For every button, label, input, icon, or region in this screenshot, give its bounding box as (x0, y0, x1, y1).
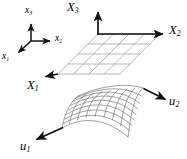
triad-group (19, 24, 51, 53)
global-axis-label-X2: X2 (169, 24, 181, 37)
parameter-label-u1: u1 (20, 140, 30, 153)
parameter-axis-u2 (144, 89, 166, 100)
global-axis-label-X1: X1 (27, 79, 39, 92)
triad-label-x2: x2 (55, 34, 62, 44)
deformed-surface-mesh (62, 85, 143, 137)
figure-canvas: x3 x2 x1 X3 X2 X1 u1 u2 (0, 0, 187, 159)
global-axis-label-X3: X3 (67, 1, 79, 14)
global-axis-X1 (46, 74, 59, 77)
triad-label-x1: x1 (2, 52, 9, 62)
triad-label-x3: x3 (25, 6, 32, 16)
parameter-axis-u1 (37, 128, 64, 140)
parameter-label-u2: u2 (169, 95, 179, 108)
reference-plane-mesh (58, 34, 160, 74)
triad-axis-x1 (19, 41, 32, 53)
